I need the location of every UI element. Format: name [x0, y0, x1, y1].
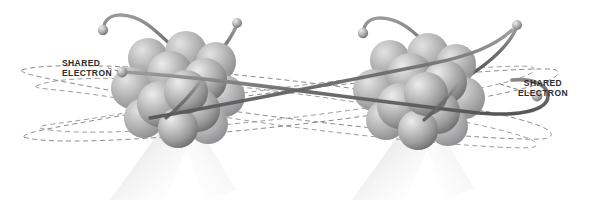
label-left-line2: ELECTRON [62, 68, 112, 78]
atom-right-nucleus [353, 33, 485, 150]
label-right-line2: ELECTRON [518, 88, 568, 98]
electron-right-upper-right [512, 20, 522, 30]
label-left-line1: SHARED [62, 58, 112, 68]
electron-left-upper-right [232, 18, 242, 28]
covalent-bond-diagram: SHARED ELECTRON SHARED ELECTRON [0, 0, 593, 204]
electron-left-upper-left [98, 25, 108, 35]
diagram-artwork [0, 0, 593, 204]
label-shared-electron-left: SHARED ELECTRON [62, 58, 112, 78]
label-right-line1: SHARED [518, 78, 568, 88]
label-shared-electron-right: SHARED ELECTRON [518, 78, 568, 98]
atom-left-nucleus [111, 31, 245, 148]
electron-right-upper-left [358, 28, 368, 38]
electron-left-shared [117, 67, 128, 78]
